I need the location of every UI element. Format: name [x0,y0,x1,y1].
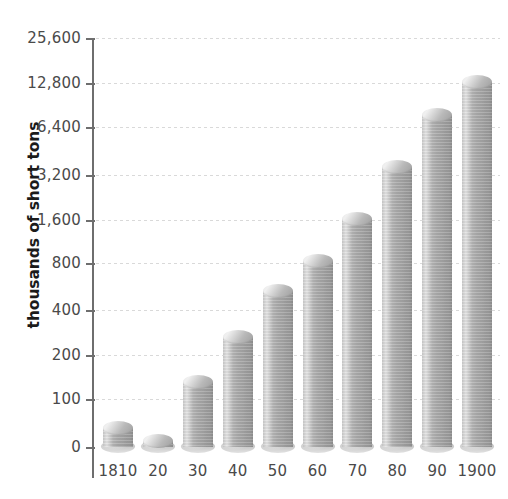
y-tick-label: 12,800 [27,74,81,92]
y-tick-label: 6,400 [37,118,81,136]
bar [223,330,253,447]
bar-body [422,115,452,447]
bar [462,75,492,447]
bar-body [303,261,333,447]
bar [303,254,333,447]
y-tick-mark [86,263,95,265]
x-tick-label: 40 [228,462,248,480]
y-tick-mark [86,38,95,40]
y-tick-mark [86,399,95,401]
y-tick-mark [86,355,95,357]
y-tick-label: 0 [71,438,81,456]
y-tick-label: 25,600 [27,29,81,47]
x-tick-label: 80 [388,462,408,480]
x-tick-label: 30 [188,462,208,480]
bar-body [263,291,293,447]
y-tick-label: 100 [52,390,81,408]
y-tick-label: 200 [52,346,81,364]
x-tick-label: 70 [348,462,368,480]
y-tick-mark [86,127,95,129]
y-tick-mark [86,447,95,449]
y-tick-mark [86,220,95,222]
bar-cap-ellipse [263,284,293,298]
bar-cap-ellipse [303,254,333,268]
x-tick-label: 1810 [99,462,138,480]
y-tick-mark [86,175,95,177]
bar-cap-ellipse [143,434,173,448]
bar-body [223,337,253,447]
y-tick-mark [86,310,95,312]
bar [183,375,213,447]
x-tick-label: 50 [268,462,288,480]
y-tick-mark [86,83,95,85]
bar [382,160,412,447]
x-tick-label: 60 [308,462,328,480]
bar-body [462,82,492,447]
gridline [96,38,500,39]
y-tick-label: 1,600 [37,211,81,229]
bar-body [183,382,213,447]
y-tick-label: 3,200 [37,166,81,184]
bar [143,434,173,447]
bar [342,212,372,447]
plot-area: 01002004008001,6003,2006,40012,80025,600 [92,30,500,448]
bar [263,284,293,447]
y-axis-line [92,38,94,478]
bar-cap-ellipse [422,108,452,122]
bar-chart: thousands of short tons 01002004008001,6… [0,0,508,499]
x-tick-label: 20 [148,462,168,480]
bar [422,108,452,447]
bar-cap-ellipse [103,421,133,435]
x-tick-label: 90 [427,462,447,480]
bar-cap-ellipse [342,212,372,226]
y-tick-label: 400 [52,301,81,319]
x-tick-label: 1900 [458,462,497,480]
bar-body [382,167,412,447]
bar [103,421,133,447]
bar-cap-ellipse [183,375,213,389]
y-tick-label: 800 [52,254,81,272]
gridline [96,83,500,84]
bar-body [342,219,372,447]
